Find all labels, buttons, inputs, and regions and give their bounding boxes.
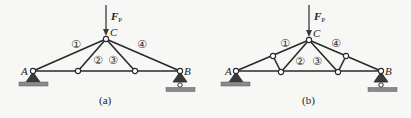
- caption-b: (b): [302, 94, 315, 107]
- node-lower-left-b: [278, 69, 283, 74]
- member-number-3-a: ③: [108, 54, 118, 67]
- member-number-4-a: ④: [137, 38, 147, 51]
- node-C-a: [103, 36, 108, 41]
- panel-a: FP A B C: [19, 5, 195, 107]
- caption-a: (a): [99, 94, 112, 107]
- label-C-b: C: [313, 27, 321, 39]
- nodes-a: [30, 36, 182, 73]
- node-B-b: [378, 68, 383, 73]
- node-C-b: [306, 37, 311, 42]
- label-C-a: C: [110, 26, 118, 38]
- load-label-b: FP: [313, 10, 325, 24]
- member-number-2-b: ②: [295, 55, 305, 68]
- node-inner-right-a: [132, 68, 137, 73]
- label-A-a: A: [20, 65, 28, 77]
- member-number-1-b: ①: [280, 37, 290, 50]
- node-upper-right-b: [343, 53, 348, 58]
- member-number-1-a: ①: [71, 38, 81, 51]
- load-arrow-b: [306, 5, 312, 37]
- member-number-4-b: ④: [331, 37, 341, 50]
- node-inner-left-a: [75, 68, 80, 73]
- member-number-2-a: ②: [93, 54, 103, 67]
- node-lower-right-b: [335, 69, 340, 74]
- member-number-3-b: ③: [312, 55, 322, 68]
- load-label-a: FP: [110, 10, 122, 24]
- label-B-b: B: [385, 65, 392, 77]
- node-upper-left-b: [270, 53, 275, 58]
- panel-b: FP: [221, 5, 397, 107]
- roller-support-b-b: [368, 72, 397, 92]
- label-A-b: A: [224, 65, 232, 77]
- members-b: [236, 40, 381, 72]
- node-B-a: [177, 68, 182, 73]
- label-B-a: B: [184, 65, 191, 77]
- truss-figure: FP A B C: [0, 0, 411, 118]
- node-A-a: [30, 68, 35, 73]
- load-arrow-a: [103, 5, 109, 36]
- members-a: [33, 39, 180, 71]
- node-A-b: [233, 68, 238, 73]
- nodes-b: [233, 37, 383, 74]
